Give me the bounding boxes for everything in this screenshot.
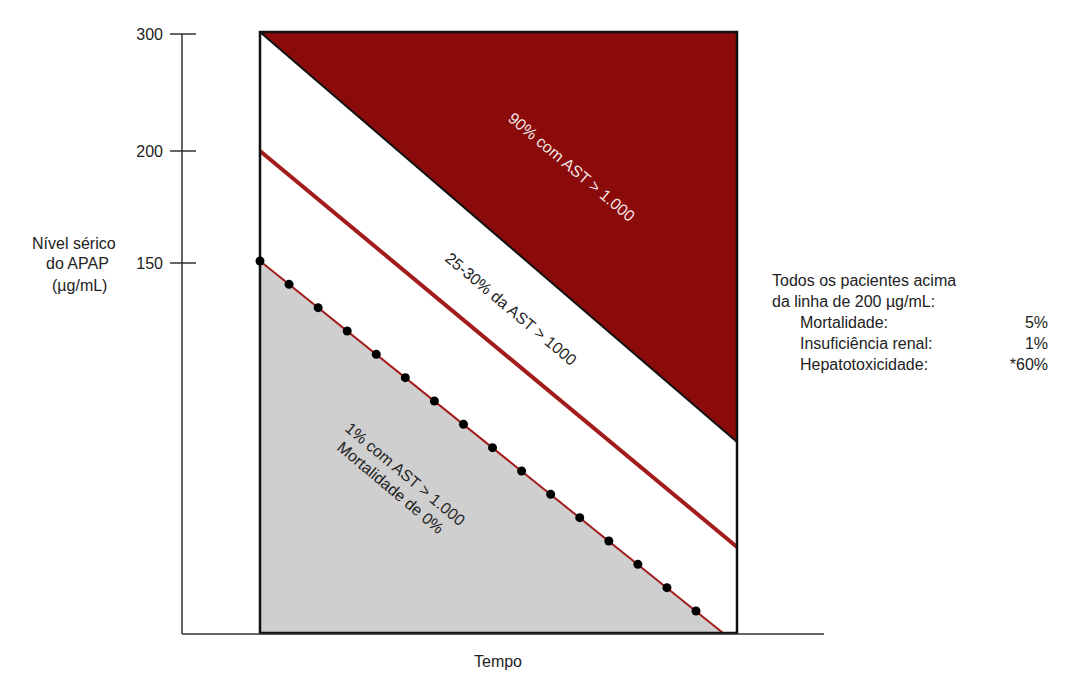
stat-value: 1% — [988, 333, 1048, 354]
y-axis-label-line3: (µg/mL) — [52, 277, 107, 294]
marker-dot — [256, 257, 265, 266]
marker-dot — [692, 607, 701, 616]
marker-dot — [662, 583, 671, 592]
stat-value: *60% — [988, 354, 1048, 375]
stat-row-hepatotoxicity: Hepatotoxicidade: *60% — [772, 354, 1048, 375]
x-axis-label: Tempo — [474, 653, 522, 670]
tick-label-200: 200 — [136, 143, 163, 160]
marker-dot — [401, 373, 410, 382]
side-note: Todos os pacientes acima da linha de 200… — [772, 270, 1048, 375]
stat-row-mortality: Mortalidade: 5% — [772, 312, 1048, 333]
marker-dot — [517, 467, 526, 476]
marker-dot — [459, 420, 468, 429]
y-axis-label-line2: do APAP — [46, 255, 109, 272]
marker-dot — [633, 560, 642, 569]
marker-dot — [343, 327, 352, 336]
stat-key: Hepatotoxicidade: — [800, 354, 988, 375]
tick-label-300: 300 — [136, 26, 163, 43]
marker-dot — [575, 513, 584, 522]
marker-dot — [430, 397, 439, 406]
marker-dot — [546, 490, 555, 499]
stat-row-renal: Insuficiência renal: 1% — [772, 333, 1048, 354]
stat-key: Insuficiência renal: — [800, 333, 988, 354]
marker-dot — [285, 280, 294, 289]
stat-value: 5% — [988, 312, 1048, 333]
marker-dot — [604, 537, 613, 546]
marker-dot — [372, 350, 381, 359]
side-note-line2: da linha de 200 µg/mL: — [772, 291, 1048, 312]
y-axis-label-line1: Nível sérico — [32, 235, 116, 252]
stat-key: Mortalidade: — [800, 312, 988, 333]
side-note-line1: Todos os pacientes acima — [772, 270, 1048, 291]
tick-label-150: 150 — [136, 255, 163, 272]
marker-dot — [488, 443, 497, 452]
marker-dot — [314, 303, 323, 312]
